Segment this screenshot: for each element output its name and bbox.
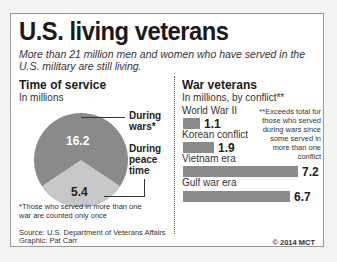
copyright: © 2014 MCT — [272, 238, 315, 247]
section-subtitle: In millions — [19, 92, 106, 103]
bar-korea — [183, 142, 214, 153]
label-peace: During peace time — [129, 143, 169, 176]
section-subtitle: In millions, by conflict** — [182, 92, 284, 103]
page-title: U.S. living veterans — [19, 17, 229, 46]
bar-label-vietnam: Vietnam era — [182, 153, 236, 164]
right-footnote: **Exceeds total for those who served dur… — [259, 107, 321, 161]
pie-value-peace: 5.4 — [71, 185, 88, 199]
pie-value-wars: 16.2 — [66, 134, 89, 148]
leader-line-peace — [104, 179, 145, 197]
bar-gulf — [183, 191, 290, 202]
section-title: War veterans — [182, 78, 284, 92]
time-of-service-header: Time of service In millions — [19, 78, 106, 103]
bar-label-wwii: World War II — [182, 105, 237, 116]
bar-wwii — [183, 118, 200, 129]
bar-value-gulf: 6.7 — [294, 190, 311, 204]
section-divider — [174, 76, 175, 234]
bar-label-gulf: Gulf war era — [182, 177, 236, 188]
page-subtitle: More than 21 million men and women who h… — [19, 48, 319, 72]
bar-vietnam — [183, 166, 298, 177]
war-veterans-header: War veterans In millions, by conflict** — [182, 78, 284, 103]
left-footnote: *Those who served in more than one war a… — [19, 202, 149, 220]
graphic-credit: Graphic: Pat Carr — [19, 237, 166, 245]
source-credit: Source: U.S. Department of Veterans Affa… — [19, 229, 166, 245]
bar-label-korea: Korean conflict — [182, 129, 248, 140]
section-title: Time of service — [19, 78, 106, 92]
label-wars: During wars* — [129, 110, 169, 132]
bar-value-vietnam: 7.2 — [302, 165, 319, 179]
infographic-card: U.S. living veterans More than 21 millio… — [10, 13, 324, 247]
leader-line-wars — [81, 117, 125, 118]
